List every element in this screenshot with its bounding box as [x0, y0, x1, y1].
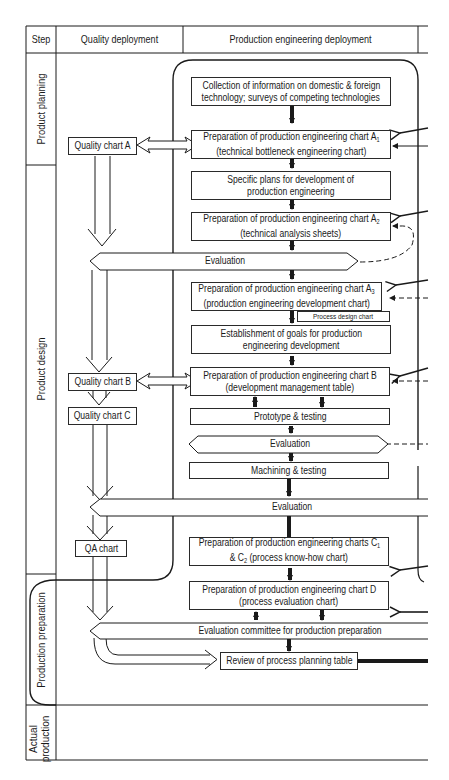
chart-a3-title: Preparation of production engineering ch…	[198, 283, 371, 294]
process-box-collection-line2: technology; surveys of competing technol…	[202, 92, 380, 104]
process-box-chart-b[interactable]: Preparation of production engineering ch…	[190, 367, 390, 396]
process-box-specific-plans-line1: Specific plans for development of	[228, 174, 355, 186]
chart-a2-subscript: 2	[376, 218, 379, 225]
process-box-specific-plans-line2: production engineering	[247, 186, 335, 198]
step-product-design: Product design	[35, 324, 47, 414]
process-box-prototype-testing[interactable]: Prototype & testing	[190, 408, 390, 425]
process-box-machining-testing[interactable]: Machining & testing	[189, 462, 389, 479]
process-box-goals-line2: engineering development	[243, 340, 340, 352]
process-box-collection-line1: Collection of information on domestic & …	[202, 80, 380, 92]
process-box-chart-b-line2: (development management table)	[226, 382, 355, 394]
process-box-chart-b-line1: Preparation of production engineering ch…	[203, 370, 377, 382]
process-box-review-planning-table[interactable]: Review of process planning table	[220, 652, 358, 670]
process-box-chart-d[interactable]: Preparation of production engineering ch…	[189, 581, 389, 610]
chart-a1-title: Preparation of production engineering ch…	[203, 131, 376, 142]
process-box-chart-a2-line2: (technical analysis sheets)	[241, 228, 342, 240]
header-step: Step	[28, 33, 54, 45]
process-box-chart-a1-line1: Preparation of production engineering ch…	[203, 131, 379, 146]
process-box-chart-a2-line1: Preparation of production engineering ch…	[203, 213, 379, 228]
process-box-chart-a3-line2: (production engineering development char…	[203, 298, 369, 310]
process-box-prototype-testing-label: Prototype & testing	[254, 411, 327, 423]
evaluation-label-2: Evaluation	[251, 438, 328, 450]
step-production-preparation: Production preparation	[35, 586, 47, 694]
external-input-arrows	[393, 128, 428, 612]
chart-a3-subscript: 3	[371, 288, 374, 295]
step-actual-production-line1: Actual	[28, 691, 40, 780]
step-actual-production-line2: production	[40, 691, 52, 780]
quality-chart-c[interactable]: Quality chart C	[68, 407, 137, 425]
header-production-engineering-deployment: Production engineering deployment	[199, 33, 401, 45]
charts-c2-prefix: & C	[230, 552, 244, 563]
quality-chart-c-label: Quality chart C	[74, 410, 131, 422]
process-box-charts-c1-c2-line1: Preparation of production engineering ch…	[198, 537, 379, 552]
charts-c1-title: Preparation of production engineering ch…	[198, 537, 376, 548]
process-box-chart-d-line2: (process evaluation chart)	[240, 596, 339, 608]
process-box-charts-c1-c2[interactable]: Preparation of production engineering ch…	[189, 537, 389, 566]
process-box-chart-a2[interactable]: Preparation of production engineering ch…	[191, 212, 391, 241]
evaluation-label-4: Evaluation committee for production prep…	[170, 625, 411, 637]
quality-chart-a[interactable]: Quality chart A	[68, 137, 137, 155]
charts-c2-desc: (process know-how chart)	[247, 552, 348, 563]
process-design-chart-note[interactable]: Process design chart	[297, 311, 390, 322]
process-box-review-planning-table-label: Review of process planning table	[226, 655, 352, 667]
step-actual-production: Actual production	[28, 691, 54, 780]
quality-chart-a-label: Quality chart A	[75, 140, 131, 152]
process-box-chart-a1-line2: (technical bottleneck engineering chart)	[216, 146, 366, 158]
process-box-goals-line1: Establishment of goals for production	[220, 328, 362, 340]
qa-chart[interactable]: QA chart	[75, 540, 127, 557]
qa-chart-label: QA chart	[84, 543, 117, 555]
process-box-charts-c1-c2-line2: & C2 (process know-how chart)	[230, 552, 348, 567]
step-product-planning: Product planning	[35, 64, 47, 154]
process-box-specific-plans[interactable]: Specific plans for development of produc…	[191, 171, 391, 200]
quality-chart-b[interactable]: Quality chart B	[68, 373, 137, 391]
chart-a2-title: Preparation of production engineering ch…	[203, 213, 376, 224]
process-design-chart-label: Process design chart	[313, 312, 373, 321]
process-box-chart-a3[interactable]: Preparation of production engineering ch…	[191, 282, 382, 311]
process-box-chart-a1[interactable]: Preparation of production engineering ch…	[191, 130, 391, 159]
quality-chart-b-label: Quality chart B	[74, 376, 130, 388]
process-box-chart-a3-line1: Preparation of production engineering ch…	[198, 283, 374, 298]
process-box-chart-d-line1: Preparation of production engineering ch…	[202, 584, 376, 596]
process-box-machining-testing-label: Machining & testing	[251, 465, 326, 477]
chart-a1-subscript: 1	[376, 136, 379, 143]
evaluation-label-1: Evaluation	[186, 255, 263, 267]
process-box-collection[interactable]: Collection of information on domestic & …	[191, 77, 391, 106]
process-box-goals[interactable]: Establishment of goals for production en…	[191, 325, 391, 354]
charts-c1-subscript: 1	[377, 542, 380, 549]
evaluation-label-3: Evaluation	[253, 501, 330, 513]
header-quality-deployment: Quality deployment	[65, 33, 174, 45]
